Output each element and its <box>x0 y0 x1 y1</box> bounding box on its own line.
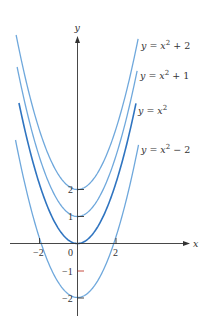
x-axis-arrow-icon <box>183 241 190 246</box>
y-axis-label: y <box>74 22 81 33</box>
y-tick-label-neg2: −2 <box>62 293 73 304</box>
curve-label-base: y = x2 <box>137 104 167 116</box>
x-tick-label-neg2: −2 <box>33 247 44 258</box>
y-tick-label-2: 2 <box>68 184 73 195</box>
curve-label-minus2: y = x2 − 2 <box>140 143 190 155</box>
y-tick-label-neg1: −1 <box>62 266 73 277</box>
y-tick-label-1: 1 <box>68 211 73 222</box>
x-tick-label-0: 0 <box>68 247 73 258</box>
parabola-shift-chart: x y −2 0 2 2 1 −1 −2 y = x2 + 2 y = x2 +… <box>0 0 212 330</box>
x-axis-label: x <box>193 238 199 249</box>
curve-label-plus2: y = x2 + 2 <box>140 39 190 51</box>
x-tick-label-2: 2 <box>113 247 118 258</box>
curves <box>16 35 139 298</box>
curve-label-plus1: y = x2 + 1 <box>139 69 189 81</box>
y-axis-arrow-icon <box>75 36 80 43</box>
